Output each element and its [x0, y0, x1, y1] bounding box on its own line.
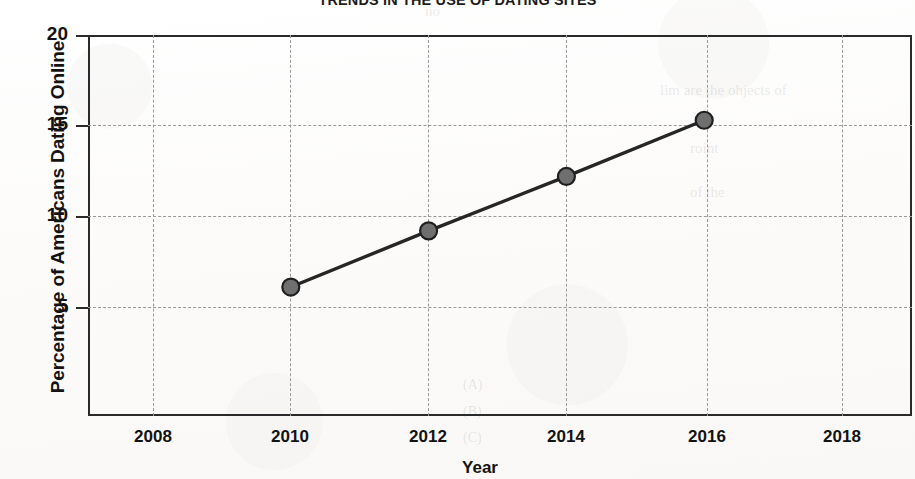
gridline-x-2018	[842, 35, 843, 416]
x-tick-label-2016: 2016	[662, 427, 752, 447]
plot-area	[88, 35, 912, 416]
x-tick-label-2010: 2010	[245, 427, 335, 447]
gridline-y-5	[88, 307, 912, 308]
y-tick-label-10: 10	[8, 204, 68, 226]
y-tick-mark-5	[76, 307, 88, 309]
y-tick-mark-10	[76, 216, 88, 218]
y-tick-label-15: 15	[8, 113, 68, 135]
y-tick-label-20: 20	[8, 23, 68, 45]
y-tick-mark-15	[76, 125, 88, 127]
gridline-y-10	[88, 216, 912, 217]
y-tick-mark-20	[76, 35, 88, 37]
gridline-x-2008	[153, 35, 154, 416]
x-tick-label-2018: 2018	[797, 427, 887, 447]
gridline-x-2016	[707, 35, 708, 416]
x-tick-label-2008: 2008	[108, 427, 198, 447]
gridline-y-15	[88, 125, 912, 126]
x-tick-label-2014: 2014	[521, 427, 611, 447]
chart-page: no lim are the ohjects of roint of the (…	[0, 0, 915, 479]
y-tick-label-5: 5	[8, 295, 68, 317]
x-tick-label-2012: 2012	[383, 427, 473, 447]
x-axis-title: Year	[430, 458, 530, 478]
gridline-x-2010	[290, 35, 291, 416]
gridline-x-2012	[428, 35, 429, 416]
gridline-x-2014	[566, 35, 567, 416]
chart-title: TRENDS IN THE USE OF DATING SITES	[32, 0, 883, 9]
